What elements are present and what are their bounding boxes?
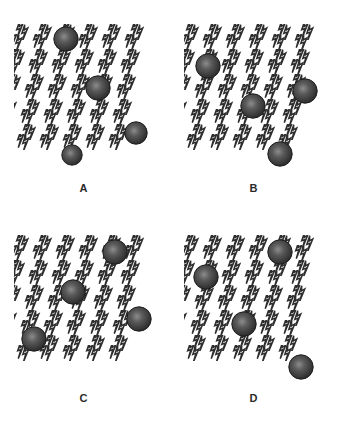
panel-b[interactable] [184,23,323,175]
sphere-icon [53,26,79,52]
sphere-icon [60,279,86,305]
panel-a-field [14,23,153,175]
panel-b-field [184,23,323,175]
sphere-icon [267,141,293,167]
sphere-icon [231,311,257,337]
panel-c-field [14,234,153,386]
panel-label-b: B [184,182,323,194]
figure-canvas: ABCD [0,0,340,423]
panel-label-a: A [14,182,153,194]
sphere-icon [292,78,318,104]
sphere-group [184,234,323,386]
sphere-group [14,23,153,175]
sphere-icon [193,264,219,290]
panel-a[interactable] [14,23,153,175]
sphere-icon [102,239,128,265]
panel-d-field [184,234,323,386]
sphere-icon [124,121,148,145]
panel-c[interactable] [14,234,153,386]
sphere-icon [61,144,83,166]
sphere-icon [240,93,266,119]
panel-label-d: D [184,392,323,404]
sphere-icon [267,239,293,265]
panel-label-c: C [14,392,153,404]
sphere-icon [126,306,152,332]
sphere-icon [85,75,111,101]
panel-d[interactable] [184,234,323,386]
sphere-group [14,234,153,386]
sphere-icon [288,354,314,380]
sphere-group [184,23,323,175]
sphere-icon [21,326,47,352]
sphere-icon [195,53,221,79]
